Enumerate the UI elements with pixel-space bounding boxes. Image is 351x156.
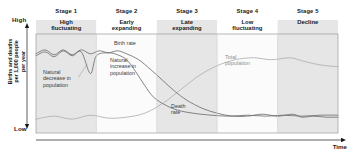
stage-name-5: Decline	[278, 19, 338, 26]
stage-name-1: High fluctuating	[36, 19, 96, 32]
stage-name-1-line-1: High	[36, 19, 96, 26]
stage-name-5-line-1: Decline	[278, 19, 338, 26]
stage-name-4-line-1: Low	[217, 19, 277, 26]
stage-name-3-line-2: expanding	[157, 25, 217, 32]
natural-decrease-annotation: Natural decrease in population	[43, 69, 71, 88]
death-rate-annotation-line-2: rate	[171, 109, 185, 115]
stage-name-3: Late expanding	[157, 19, 217, 32]
stage-number-3: Stage 3	[157, 8, 217, 15]
stage-band-5	[278, 34, 338, 133]
birth-rate-annotation: Birth rate	[114, 40, 136, 46]
stage-number-1: Stage 1	[36, 8, 96, 15]
stage-name-2: Early expanding	[96, 19, 156, 32]
stage-band-4	[217, 34, 277, 133]
stage-number-5: Stage 5	[278, 8, 338, 15]
stage-header-4: Stage 4 Low fluctuating	[217, 8, 277, 34]
stage-header-3: Stage 3 Late expanding	[157, 8, 217, 34]
stage-name-3-line-1: Late	[157, 19, 217, 26]
stage-name-2-line-1: Early	[96, 19, 156, 26]
demographic-transition-figure: High Low Births and deaths per 1,000 peo…	[0, 0, 351, 156]
x-axis-title: Time	[333, 143, 347, 150]
y-axis-title: Births and deaths per 1,000 people per y…	[7, 30, 26, 92]
total-population-annotation-line-2: population	[225, 60, 250, 66]
y-axis-low-label: Low	[14, 125, 27, 132]
total-population-annotation: Total population	[225, 54, 250, 67]
natural-decrease-annotation-line-3: population	[43, 82, 71, 88]
natural-increase-annotation-line-3: population	[110, 70, 136, 76]
death-rate-annotation: Death rate	[171, 103, 185, 116]
y-axis-arrow-up	[25, 23, 29, 28]
natural-increase-annotation-line-2: increase in	[110, 63, 136, 69]
stage-number-4: Stage 4	[217, 8, 277, 15]
stage-name-2-line-2: expanding	[96, 25, 156, 32]
birth-rate-annotation-line-1: Birth rate	[114, 40, 136, 46]
x-axis-arrow-right	[341, 138, 346, 142]
stage-header-1: Stage 1 High fluctuating	[36, 8, 96, 34]
stage-number-2: Stage 2	[96, 8, 156, 15]
natural-increase-annotation: Natural increase in population	[110, 57, 136, 76]
stage-name-1-line-2: fluctuating	[36, 25, 96, 32]
stage-header-5: Stage 5 Decline	[278, 8, 338, 34]
natural-decrease-annotation-line-2: decrease in	[43, 75, 71, 81]
stage-header-2: Stage 2 Early expanding	[96, 8, 156, 34]
stage-name-4: Low fluctuating	[217, 19, 277, 32]
y-axis-title-line-3: per year	[19, 30, 25, 92]
y-axis-high-label: High	[12, 16, 26, 23]
stage-name-4-line-2: fluctuating	[217, 25, 277, 32]
